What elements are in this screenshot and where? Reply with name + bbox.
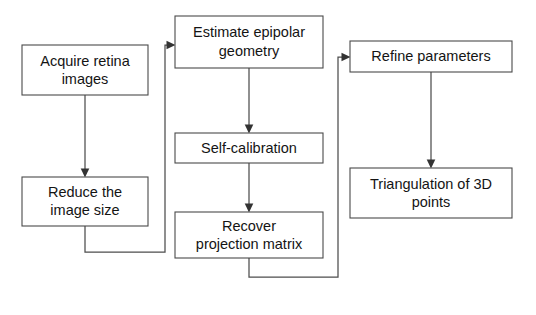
- node-recover-projection-matrix[interactable]: Recover projection matrix: [175, 212, 323, 258]
- flowchart-canvas: Acquire retina images Reduce the image s…: [0, 0, 536, 315]
- node-acquire-retina-images[interactable]: Acquire retina images: [22, 45, 148, 95]
- node-estimate-epipolar-geometry-label-line2: geometry: [219, 43, 280, 59]
- node-reduce-image-size-label-line2: image size: [50, 202, 119, 218]
- flowchart-diagram: Acquire retina images Reduce the image s…: [0, 0, 536, 315]
- node-reduce-image-size-label-line1: Reduce the: [48, 184, 122, 200]
- edge-selfcal-to-recover: [245, 163, 254, 213]
- edge-acquire-to-reduce: [81, 95, 90, 178]
- node-refine-parameters[interactable]: Refine parameters: [350, 41, 512, 72]
- node-estimate-epipolar-geometry-label-line1: Estimate epipolar: [193, 24, 305, 40]
- node-reduce-image-size[interactable]: Reduce the image size: [22, 177, 148, 226]
- node-refine-parameters-label-line1: Refine parameters: [371, 48, 490, 64]
- node-acquire-retina-images-label-line2: images: [62, 71, 109, 87]
- node-recover-projection-matrix-label-line1: Recover: [222, 218, 276, 234]
- node-self-calibration-label-line1: Self-calibration: [201, 140, 297, 156]
- node-estimate-epipolar-geometry[interactable]: Estimate epipolar geometry: [175, 16, 323, 68]
- node-self-calibration[interactable]: Self-calibration: [175, 133, 323, 163]
- node-recover-projection-matrix-label-line2: projection matrix: [196, 236, 303, 252]
- edge-epipolar-to-selfcal: [245, 68, 254, 134]
- node-triangulation-of-3d-points-label-line1: Triangulation of 3D: [370, 176, 492, 192]
- node-triangulation-of-3d-points-label-line2: points: [412, 194, 451, 210]
- node-triangulation-of-3d-points[interactable]: Triangulation of 3D points: [350, 168, 512, 218]
- edge-refine-to-triangulation: [427, 72, 436, 169]
- node-acquire-retina-images-label-line1: Acquire retina: [40, 53, 130, 69]
